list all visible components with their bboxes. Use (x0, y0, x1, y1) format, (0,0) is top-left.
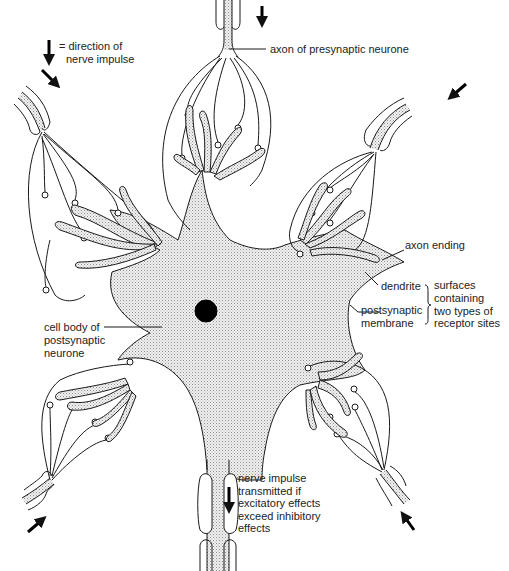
impulse-arrow-icon (28, 520, 42, 532)
neuron-synapse-diagram: = direction of nerve impulse axon of pre… (0, 0, 509, 571)
label-postsynaptic-membrane-1: postsynaptic (361, 304, 422, 317)
label-axon-ending: axon ending (405, 239, 465, 252)
label-cell-body-2: postsynaptic (44, 334, 105, 347)
impulse-arrow-icon (42, 70, 56, 84)
impulse-arrow-icon (452, 84, 466, 96)
legend-line-1: = direction of (59, 40, 122, 52)
label-output-4: exceed inhibitory (238, 510, 321, 523)
legend-line-2: nerve impulse (66, 53, 134, 65)
label-output-1: nerve impulse (238, 472, 306, 485)
nucleus (195, 300, 217, 322)
postsynaptic-axon (198, 460, 239, 571)
label-dendrite: dendrite (381, 280, 421, 293)
brace-receptor-surfaces (425, 285, 431, 324)
legend-text-2: nerve impulse (66, 53, 134, 66)
label-presynaptic-axon: axon of presynaptic neurone (270, 43, 409, 56)
presynaptic-input-top (163, 0, 271, 230)
dendrites-bottom-left (56, 378, 137, 442)
label-cell-body-1: cell body of (44, 321, 100, 334)
label-receptor-note-1: surfaces (434, 279, 476, 292)
label-receptor-note-2: containing (434, 292, 484, 305)
label-output-2: transmitted if (238, 485, 301, 498)
label-receptor-note-3: two types of (434, 305, 493, 318)
impulse-arrow-icon (404, 516, 414, 530)
dendrites-top-left (55, 186, 162, 268)
label-receptor-note-4: receptor sites (434, 317, 500, 330)
label-output-5: effects (238, 522, 270, 535)
legend-text: = direction of (59, 40, 122, 53)
label-postsynaptic-membrane-2: membrane (361, 317, 414, 330)
label-output-3: excitatory effects (238, 497, 320, 510)
label-cell-body-3: neurone (44, 347, 84, 360)
